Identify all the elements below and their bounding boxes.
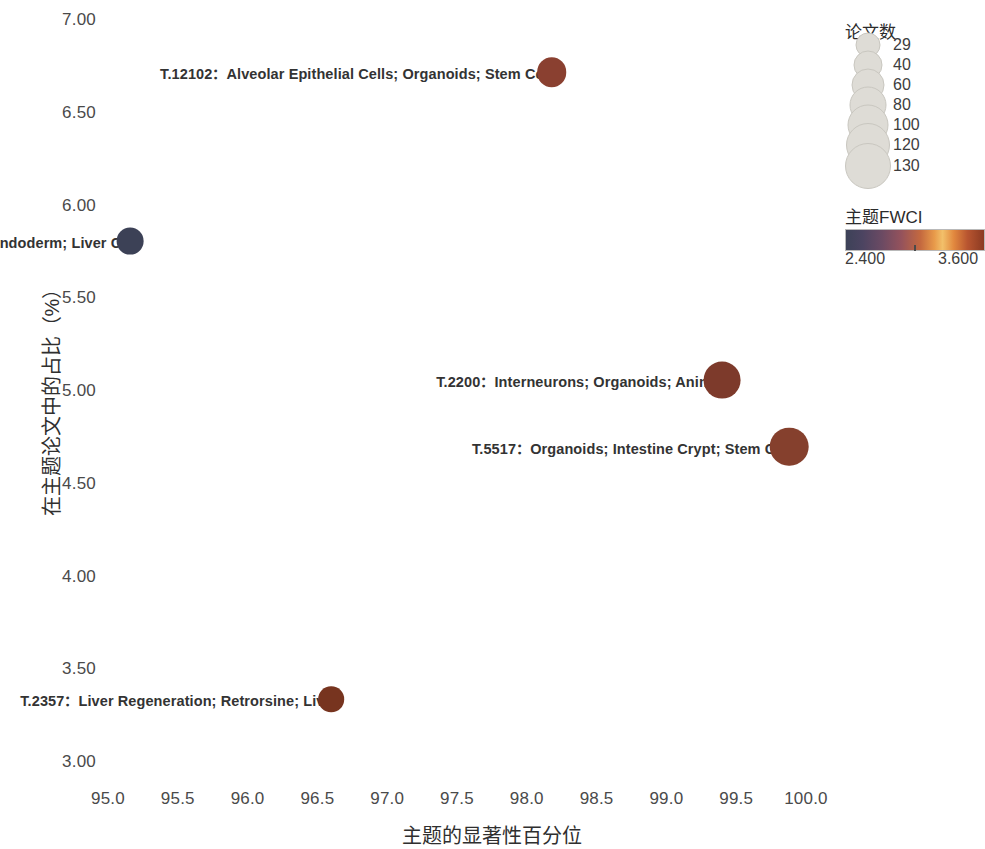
size-legend-label: 120 — [893, 136, 920, 154]
x-axis-tick-label: 97.5 — [417, 789, 497, 809]
x-axis-tick-label: 97.0 — [347, 789, 427, 809]
data-point-bubble[interactable] — [704, 361, 741, 398]
data-point-bubble[interactable] — [319, 686, 345, 712]
x-axis-tick-label: 99.5 — [696, 789, 776, 809]
point-label: T.2357：Liver Regeneration; Retrorsine; L… — [20, 688, 338, 709]
y-axis-tick-label: 3.00 — [32, 752, 96, 772]
size-legend-label: 29 — [893, 36, 911, 54]
x-axis-tick-label: 98.0 — [487, 789, 567, 809]
y-axis-tick-label: 4.00 — [32, 567, 96, 587]
size-legend-bubble — [845, 143, 891, 189]
color-legend-max-label: 3.600 — [938, 250, 978, 268]
data-point-bubble[interactable] — [117, 227, 144, 254]
x-axis-tick-label: 98.5 — [557, 789, 637, 809]
size-legend-label: 80 — [893, 96, 911, 114]
color-legend-tick — [914, 245, 916, 251]
color-legend-min-label: 2.400 — [845, 250, 885, 268]
data-point-bubble[interactable] — [537, 57, 567, 87]
point-label: T.2200：Interneurons; Organoids; Animals — [436, 369, 732, 390]
x-axis-tick-label: 96.0 — [208, 789, 288, 809]
x-axis-tick-label: 100.0 — [766, 789, 846, 809]
size-legend-label: 130 — [893, 157, 920, 175]
x-axis-tick-label: 95.0 — [68, 789, 148, 809]
y-axis-tick-label: 3.50 — [32, 659, 96, 679]
y-axis-tick-label: 6.50 — [32, 103, 96, 123]
size-legend-label: 40 — [893, 56, 911, 74]
size-legend-label: 60 — [893, 76, 911, 94]
data-point-bubble[interactable] — [770, 427, 809, 466]
y-axis-title: 在主题论文中的占比（%） — [36, 268, 65, 528]
x-axis-title: 主题的显著性百分位 — [0, 820, 984, 849]
point-label: T.12102：Alveolar Epithelial Cells; Organ… — [160, 61, 560, 82]
point-label: T.5517：Organoids; Intestine Crypt; Stem … — [472, 436, 800, 457]
x-axis-tick-label: 96.5 — [277, 789, 357, 809]
x-axis-tick-label: 99.0 — [626, 789, 706, 809]
color-legend-title: 主题FWCI — [845, 203, 922, 228]
x-axis-tick-label: 95.5 — [138, 789, 218, 809]
y-axis-tick-label: 6.00 — [32, 196, 96, 216]
y-axis-tick-label: 7.00 — [32, 10, 96, 30]
size-legend-label: 100 — [893, 116, 920, 134]
